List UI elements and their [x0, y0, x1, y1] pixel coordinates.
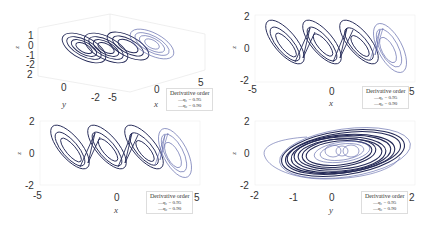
panel-xz-top: z 2 0 -2 -5 0 5 x Derivative order —q₁ =… — [215, 0, 430, 113]
legend: Derivative order —q₁ = 0.95 —q₂ = 0.90 — [146, 191, 193, 214]
y-tick: -2 — [250, 191, 259, 201]
z-tick: 0 — [244, 149, 250, 159]
z-tick: 2 — [29, 117, 35, 127]
y-axis-label: y — [62, 100, 66, 109]
x-axis-label: x — [329, 99, 333, 108]
y-tick: -1 — [289, 193, 298, 203]
z-tick: 0 — [244, 44, 250, 54]
legend: Derivative order —q₁ = 0.95 —q₂ = 0.90 — [362, 86, 409, 109]
y-tick: -2 — [91, 93, 100, 103]
y-tick: 0 — [329, 193, 335, 203]
x-tick: 5 — [194, 193, 200, 203]
legend: Derivative order —q₁ = 0.95 —q₂ = 0.90 — [166, 88, 213, 111]
z-axis-label: z — [231, 46, 238, 49]
panel-yz: z 2 0 -2 -2 -1 0 2 y Derivative order —q… — [215, 113, 430, 226]
y-tick: 0 — [61, 83, 67, 93]
x-tick: 0 — [154, 85, 160, 95]
x-axis-label: x — [114, 206, 118, 215]
x-axis-label: x — [154, 100, 158, 109]
x-tick: 5 — [198, 78, 204, 88]
legend-entry-q2: —q₂ = 0.90 — [366, 101, 405, 107]
y-axis-label: y — [329, 206, 333, 215]
z-tick: 2 — [244, 117, 250, 127]
z-tick: -2 — [240, 181, 249, 191]
x-tick: -5 — [248, 85, 257, 95]
legend-title: Derivative order — [365, 193, 404, 200]
x-tick: 0 — [114, 193, 120, 203]
legend-title: Derivative order — [366, 88, 405, 95]
legend: Derivative order —q₁ = 0.95 —q₂ = 0.90 — [361, 191, 408, 214]
panel-3d-xyz: z 1 0 -1 -2 2 0 -2 -5 0 5 y x Derivative… — [0, 0, 215, 113]
x-tick: -5 — [33, 191, 42, 201]
legend-title: Derivative order — [150, 193, 189, 200]
x-tick: 5 — [409, 87, 415, 97]
x-tick: 0 — [329, 87, 335, 97]
z-tick: 2 — [244, 12, 250, 22]
panel-xz-bottom: z 2 0 -2 -5 0 5 x Derivative order —q₁ =… — [0, 113, 215, 226]
legend-entry-q2: —q₂ = 0.90 — [365, 206, 404, 212]
y-tick: 2 — [409, 193, 415, 203]
z-axis-label: z — [16, 152, 23, 155]
legend-entry-q2: —q₂ = 0.90 — [170, 103, 209, 109]
x-tick: -5 — [108, 93, 117, 103]
z-tick: 2 — [27, 70, 33, 80]
legend-entry-q2: —q₂ = 0.90 — [150, 206, 189, 212]
z-tick: 0 — [29, 149, 35, 159]
z-axis-label: z — [231, 152, 238, 155]
legend-title: Derivative order — [170, 90, 209, 97]
z-axis-label: z — [14, 46, 21, 49]
